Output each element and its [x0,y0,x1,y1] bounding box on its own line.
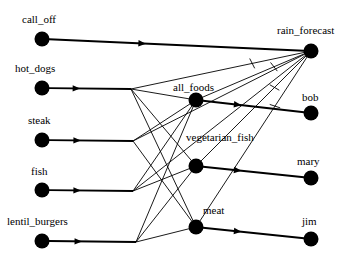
node-call_off[interactable] [35,32,50,47]
edge-junction_steak-to-steak [49,140,133,141]
fan-edge-group [131,89,193,242]
edge-rain_forecast-to-all_foods [202,54,304,98]
node-label-lentil_burgers: lentil_burgers [7,216,68,227]
diagram-canvas: call_offhot_dogssteakfishlentil_burgersa… [0,0,357,268]
edge-meat-to-junction_steak [133,141,192,221]
node-lentil_burgers[interactable] [35,234,50,249]
node-fish[interactable] [35,183,50,198]
edge-rain_forecast-to-call_off [49,39,304,50]
edge-mary-to-vegetarian_fish [203,167,304,178]
node-label-vegetarian_fish: vegetarian_fish [186,132,254,143]
node-meat[interactable] [189,220,204,235]
arrowhead-junction_fish-to-fish [73,187,81,193]
node-label-hot_dogs: hot_dogs [15,63,55,74]
node-label-mary: mary [297,156,320,167]
node-label-all_foods: all_foods [173,82,214,93]
arrowhead-rain_forecast-to-call_off [138,40,146,46]
edge-jim-to-meat [203,228,304,239]
edge-all_foods-to-junction_steak [133,104,190,141]
edge-bob-to-all_foods [203,101,304,112]
edge-rain_forecast-to-junction_steak [133,54,305,141]
edge-rain_forecast-to-vegetarian_fish [201,56,306,161]
node-jim[interactable] [304,232,319,247]
negation-tick-vegetarian_fish [270,85,280,91]
edge-junction_lentil-to-lentil_burgers [49,241,136,242]
node-all_foods[interactable] [189,93,204,108]
edge-meat-to-junction_hot [131,89,193,221]
node-hot_dogs[interactable] [35,81,50,96]
edge-junction_hot-to-hot_dogs [49,88,131,89]
edge-meat-to-junction_lentil [136,229,189,242]
arrowhead-junction_hot-to-hot_dogs [73,85,81,91]
graph-edges-layer [0,0,357,268]
node-mary[interactable] [304,171,319,186]
edge-rain_forecast-to-junction_fish [133,55,305,191]
node-label-rain_forecast: rain_forecast [277,25,334,36]
node-label-jim: jim [302,216,317,227]
node-bob[interactable] [304,106,319,121]
node-label-call_off: call_off [22,14,56,25]
node-label-fish: fish [31,166,48,177]
node-label-bob: bob [302,92,319,103]
arrowhead-junction_lentil-to-lentil_burgers [75,238,83,244]
node-steak[interactable] [35,133,50,148]
arrowhead-junction_steak-to-steak [73,137,81,143]
node-vegetarian_fish[interactable] [189,159,204,174]
edge-junction_fish-to-fish [49,190,133,191]
negation-tick-meat [270,104,280,107]
node-rain_forecast[interactable] [304,44,319,59]
node-label-steak: steak [28,115,51,126]
node-label-meat: meat [203,205,224,216]
